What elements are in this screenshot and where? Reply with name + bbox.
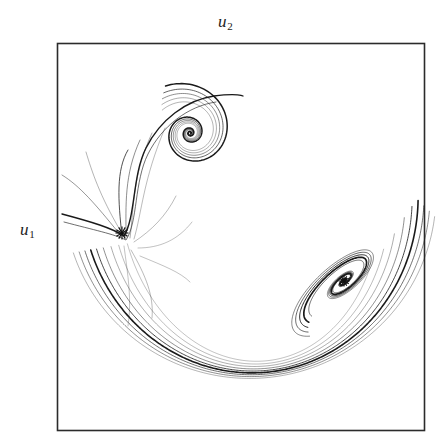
trajectory-strand-6 — [86, 152, 120, 230]
plot-canvas — [0, 0, 445, 442]
trajectory-strand-3 — [130, 133, 152, 238]
equilibrium-saddle-marker — [116, 227, 129, 240]
equilibrium-marker-group — [116, 227, 350, 287]
trajectory-separatrix-2 — [64, 102, 216, 240]
trajectory-strand-8 — [138, 222, 192, 248]
trajectory-crescent-2 — [79, 211, 429, 376]
trajectory-separatrix — [62, 95, 243, 236]
trajectory-crescent-5 — [97, 206, 412, 371]
trajectory-strand-9 — [140, 256, 190, 282]
phase-portrait-figure: u2 u1 — [0, 0, 445, 442]
trajectory-crescent-4 — [91, 201, 418, 373]
trajectory-crescent-1 — [73, 217, 434, 379]
trajectory-strand-7 — [134, 196, 176, 242]
